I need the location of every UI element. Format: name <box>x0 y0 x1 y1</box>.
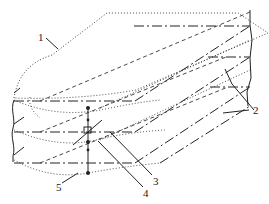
vertical-probe <box>73 106 102 175</box>
leader-5 <box>62 173 78 183</box>
leader-2b <box>223 110 249 113</box>
diagram-svg: 1 2 3 4 5 <box>0 0 269 204</box>
label-4: 4 <box>143 187 149 199</box>
leader-4 <box>98 141 143 187</box>
label-3: 3 <box>153 175 159 187</box>
left-front-edge <box>12 100 14 162</box>
label-1: 1 <box>38 31 44 43</box>
leader-lines <box>46 38 254 187</box>
labels: 1 2 3 4 5 <box>38 31 259 199</box>
probe-point-icon <box>87 119 90 122</box>
leader-1 <box>46 38 58 49</box>
horizontal-planes-back <box>134 26 250 87</box>
probe-point-icon <box>87 149 90 152</box>
label-5: 5 <box>56 181 62 193</box>
probe-point-icon <box>86 140 90 144</box>
diagram-canvas: 1 2 3 4 5 <box>0 0 269 204</box>
probe-point-icon <box>86 171 90 175</box>
probe-point-icon <box>86 106 90 110</box>
label-2: 2 <box>253 104 259 116</box>
